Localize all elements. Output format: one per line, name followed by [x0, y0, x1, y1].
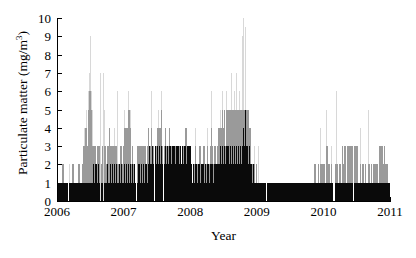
x-tick-label: 2006 [44, 205, 70, 218]
x-tick-label: 2011 [377, 205, 403, 218]
y-axis-title: Particulate matter (mg/m3) [12, 0, 34, 206]
y-axis-title-text: Particulate matter (mg/m [15, 40, 30, 175]
y-tick-label: 9 [33, 30, 51, 43]
x-tick-label: 2008 [177, 205, 203, 218]
bar-series-container [57, 18, 390, 201]
y-tick-label: 3 [33, 140, 51, 153]
y-tick-label: 8 [33, 48, 51, 61]
x-tick-label: 2009 [244, 205, 270, 218]
y-tick-mark [58, 201, 62, 202]
y-tick-label: 10 [33, 12, 51, 25]
x-tick-label: 2010 [310, 205, 336, 218]
y-tick-label: 7 [33, 66, 51, 79]
x-tick-label: 2007 [111, 205, 137, 218]
y-axis-unit-exponent: 3 [14, 36, 24, 41]
y-axis-title-suffix: ) [15, 31, 30, 36]
x-axis-line [57, 201, 391, 202]
x-tick-mark [390, 197, 391, 201]
y-tick-label: 1 [33, 176, 51, 189]
x-axis-title: Year [57, 228, 390, 244]
particulate-matter-chart: Particulate matter (mg/m3) 012345678910 … [0, 0, 416, 258]
plot-area [57, 18, 390, 201]
y-tick-label: 6 [33, 85, 51, 98]
y-tick-label: 5 [33, 103, 51, 116]
y-tick-label: 2 [33, 158, 51, 171]
y-tick-label: 4 [33, 121, 51, 134]
